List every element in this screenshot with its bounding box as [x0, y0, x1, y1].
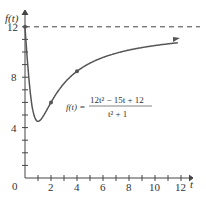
- svg-text:2: 2: [48, 181, 54, 193]
- svg-text:f(t) =: f(t) =: [66, 102, 85, 112]
- svg-text:12: 12: [175, 181, 186, 193]
- origin-label: 0: [12, 180, 18, 192]
- chart: 246810124812 f(t) t 0 f(t) = 12t² − 15t …: [0, 0, 206, 209]
- data-point: [75, 69, 79, 73]
- svg-text:4: 4: [11, 122, 17, 134]
- svg-text:t² + 1: t² + 1: [108, 109, 127, 119]
- svg-text:10: 10: [149, 181, 161, 193]
- curve: [25, 27, 178, 122]
- data-point: [23, 25, 27, 29]
- svg-text:12t² − 15t + 12: 12t² − 15t + 12: [90, 95, 144, 105]
- chart-svg: 246810124812 f(t) t 0 f(t) = 12t² − 15t …: [0, 0, 206, 209]
- svg-text:6: 6: [100, 181, 106, 193]
- x-axis-label: t: [190, 178, 194, 190]
- formula: f(t) = 12t² − 15t + 12 t² + 1: [66, 95, 152, 119]
- svg-text:8: 8: [11, 71, 17, 83]
- y-axis-label: f(t): [5, 12, 19, 25]
- svg-text:4: 4: [74, 181, 80, 193]
- svg-text:8: 8: [126, 181, 132, 193]
- data-point: [49, 100, 53, 104]
